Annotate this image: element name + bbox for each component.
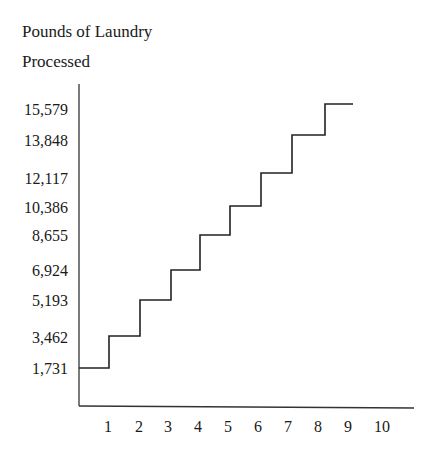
x-tick-label: 3 bbox=[164, 418, 172, 436]
x-tick-label: 7 bbox=[284, 418, 292, 436]
x-tick-label: 9 bbox=[344, 418, 352, 436]
step-series-line bbox=[79, 104, 353, 368]
chart-plot-area bbox=[0, 0, 436, 462]
x-tick-label: 10 bbox=[374, 418, 390, 436]
x-tick-label: 5 bbox=[224, 418, 232, 436]
x-axis bbox=[79, 406, 414, 408]
x-tick-label: 6 bbox=[254, 418, 262, 436]
x-tick-label: 4 bbox=[194, 418, 202, 436]
x-tick-label: 2 bbox=[135, 418, 143, 436]
x-tick-label: 8 bbox=[314, 418, 322, 436]
x-tick-label: 1 bbox=[104, 418, 112, 436]
